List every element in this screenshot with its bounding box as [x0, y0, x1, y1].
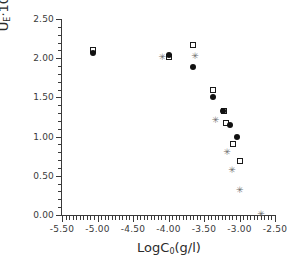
x-axis-minor-tick [147, 216, 148, 220]
x-axis-minor-tick [197, 216, 198, 220]
y-axis-minor-tick [58, 113, 62, 114]
y-axis-minor-tick [58, 129, 62, 130]
y-axis-tick-label: 1.00 [33, 132, 54, 142]
x-axis-minor-tick [73, 216, 74, 220]
y-axis-minor-tick [58, 168, 62, 169]
x-axis-major-tick [98, 216, 99, 222]
y-axis-minor-tick [58, 27, 62, 28]
x-axis-minor-tick [165, 216, 166, 220]
data-point-star: ✳ [212, 117, 219, 124]
x-axis-ticks [62, 216, 276, 226]
y-axis-minor-tick [58, 66, 62, 67]
x-axis-minor-tick [254, 216, 255, 220]
x-axis-minor-tick [87, 216, 88, 220]
data-point-open-square [230, 141, 236, 147]
x-axis-tick-labels: -5.50-5.00-4.50-4.00-3.50-3.00-2.50 [62, 224, 276, 238]
y-axis-title: UE·108(m2/Vs) [0, 0, 12, 52]
x-axis-minor-tick [161, 216, 162, 220]
x-axis-minor-tick [229, 216, 230, 220]
y-axis-minor-tick [58, 35, 62, 36]
x-axis-minor-tick [186, 216, 187, 220]
x-axis-minor-tick [222, 216, 223, 220]
x-axis-minor-tick [115, 216, 116, 220]
data-point-star: ✳ [191, 52, 198, 59]
x-axis-minor-tick [90, 216, 91, 220]
data-point-open-square [237, 158, 243, 164]
chart-figure: 0.000.501.001.502.002.50 -5.50-5.00-4.50… [0, 0, 291, 268]
x-axis-minor-tick [236, 216, 237, 220]
x-axis-minor-tick [257, 216, 258, 220]
x-axis-minor-tick [151, 216, 152, 220]
x-axis-minor-tick [144, 216, 145, 220]
x-axis-major-tick [62, 216, 63, 222]
x-axis-major-tick [275, 216, 276, 222]
x-axis-minor-tick [94, 216, 95, 220]
y-axis-major-tick [56, 58, 62, 59]
x-axis-minor-tick [69, 216, 70, 220]
y-axis-minor-tick [58, 144, 62, 145]
x-axis-major-tick [204, 216, 205, 222]
y-axis-tick-label: 2.50 [33, 14, 54, 24]
x-axis-major-tick [169, 216, 170, 222]
y-axis-tick-label: 1.50 [33, 92, 54, 102]
plot-area: ✳✳✳✳✳✳✳ [62, 19, 275, 215]
y-axis-minor-tick [58, 121, 62, 122]
x-axis-minor-tick [264, 216, 265, 220]
x-axis-minor-tick [183, 216, 184, 220]
x-axis-major-tick [133, 216, 134, 222]
y-axis-minor-tick [58, 74, 62, 75]
x-axis-minor-tick [172, 216, 173, 220]
data-point-filled-circle [190, 64, 196, 70]
y-axis-minor-tick [58, 184, 62, 185]
x-axis-minor-tick [250, 216, 251, 220]
data-point-filled-circle [90, 50, 96, 56]
x-axis-minor-tick [101, 216, 102, 220]
x-axis-minor-tick [200, 216, 201, 220]
data-point-star: ✳ [159, 53, 166, 60]
x-axis-minor-tick [122, 216, 123, 220]
x-axis-minor-tick [140, 216, 141, 220]
x-axis-minor-tick [208, 216, 209, 220]
y-axis-minor-tick [58, 82, 62, 83]
x-axis-minor-tick [158, 216, 159, 220]
x-axis-minor-tick [119, 216, 120, 220]
x-axis-minor-tick [83, 216, 84, 220]
x-axis-minor-tick [193, 216, 194, 220]
y-axis-major-tick [56, 19, 62, 20]
y-axis-major-tick [56, 137, 62, 138]
y-axis-minor-tick [58, 50, 62, 51]
x-axis-minor-tick [232, 216, 233, 220]
x-axis-minor-tick [179, 216, 180, 220]
y-axis-tick-label: 2.00 [33, 53, 54, 63]
x-axis-minor-tick [218, 216, 219, 220]
x-axis-minor-tick [108, 216, 109, 220]
y-axis-major-tick [56, 176, 62, 177]
y-axis-minor-tick [58, 43, 62, 44]
data-point-star: ✳ [223, 149, 230, 156]
x-axis-minor-tick [137, 216, 138, 220]
data-point-filled-circle [220, 108, 226, 114]
data-point-filled-circle [227, 122, 233, 128]
y-axis-minor-tick [58, 90, 62, 91]
x-axis-minor-tick [154, 216, 155, 220]
x-axis-minor-tick [211, 216, 212, 220]
y-axis-tick-label: 0.00 [33, 210, 54, 220]
data-point-star: ✳ [228, 167, 235, 174]
y-axis-minor-tick [58, 199, 62, 200]
y-axis-major-tick [56, 97, 62, 98]
x-axis-minor-tick [271, 216, 272, 220]
data-point-star: ✳ [236, 186, 243, 193]
x-axis-major-tick [240, 216, 241, 222]
x-axis-title: LogC0(g/l) [62, 240, 276, 256]
x-axis-minor-tick [247, 216, 248, 220]
y-axis-minor-tick [58, 152, 62, 153]
x-axis-minor-tick [66, 216, 67, 220]
x-axis-minor-tick [225, 216, 226, 220]
y-axis-tick-label: 0.50 [33, 171, 54, 181]
y-axis-minor-tick [58, 207, 62, 208]
y-axis-minor-tick [58, 160, 62, 161]
data-point-open-square [190, 42, 196, 48]
x-axis-minor-tick [268, 216, 269, 220]
x-axis-minor-tick [105, 216, 106, 220]
data-point-open-square [210, 87, 216, 93]
